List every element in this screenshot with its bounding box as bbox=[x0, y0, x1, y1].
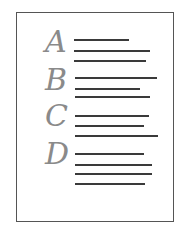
section-letter-d: D bbox=[45, 139, 69, 169]
text-line bbox=[75, 173, 152, 175]
text-line bbox=[74, 50, 150, 52]
text-line bbox=[75, 88, 140, 90]
document-page: A B C D bbox=[16, 12, 174, 222]
text-line bbox=[75, 96, 150, 98]
text-line bbox=[75, 77, 157, 79]
section-letter-a: A bbox=[45, 27, 67, 57]
text-line bbox=[74, 60, 146, 62]
text-line bbox=[75, 153, 144, 155]
text-line bbox=[75, 135, 158, 137]
text-line bbox=[75, 183, 145, 185]
text-line bbox=[75, 125, 144, 127]
text-line bbox=[75, 115, 149, 117]
section-letter-c: C bbox=[45, 101, 68, 131]
text-line bbox=[74, 39, 129, 41]
section-letter-b: B bbox=[45, 65, 67, 95]
text-line bbox=[75, 164, 152, 166]
